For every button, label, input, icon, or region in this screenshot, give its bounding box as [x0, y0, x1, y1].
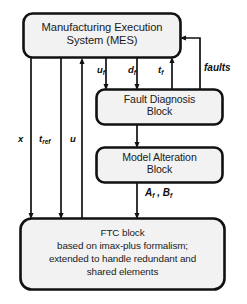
signal-label-tref-sub: ref [42, 138, 50, 145]
signal-label-uf: uf [97, 64, 105, 75]
signal-label-faults: faults [204, 62, 231, 73]
signal-label-bf-sub: f [170, 192, 172, 199]
signal-label-bf-base: , B [154, 187, 170, 198]
arrow-fdb-to-mes-faults [183, 38, 200, 89]
signal-label-uf-sub: f [103, 69, 105, 76]
ftc-block-label: FTC block based on imax-plus formalism; … [20, 227, 225, 279]
signal-label-tf-sub: f [161, 69, 163, 76]
model-alteration-block-label: Model Alteration Block [96, 152, 223, 176]
fault-diagnosis-block-label: Fault Diagnosis Block [96, 94, 223, 118]
connector-lines [31, 38, 200, 218]
signal-label-x-base: x [18, 133, 23, 144]
block-diagram: Manufacturing Execution System (MES) Fau… [0, 0, 247, 304]
signal-label-faults-base: faults [204, 62, 231, 73]
signal-label-df: df [128, 64, 136, 75]
mes-block-label: Manufacturing Execution System (MES) [23, 21, 181, 46]
signal-label-df-base: d [128, 64, 134, 75]
signal-label-tf: tf [158, 64, 163, 75]
signal-label-uf-base: u [97, 64, 103, 75]
signal-label-af-bf: Af , Bf [145, 187, 172, 198]
signal-label-tref: tref [39, 133, 50, 144]
signal-label-u-base: u [70, 133, 76, 144]
signal-label-x: x [18, 133, 23, 144]
signal-label-df-sub: f [134, 69, 136, 76]
signal-label-u: u [70, 133, 76, 144]
